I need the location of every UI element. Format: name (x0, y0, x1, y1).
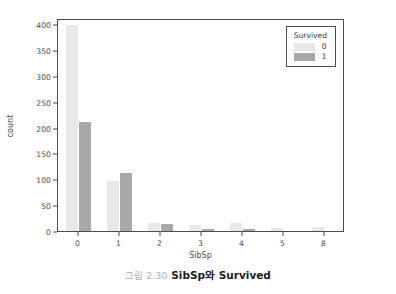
x-tick-mark (200, 232, 201, 236)
bar (120, 173, 133, 231)
y-axis: count 050100150200250300350400 (0, 19, 57, 232)
plot-area: Survived 0 1 (57, 19, 344, 232)
x-tick-mark (118, 232, 119, 236)
y-tick-label: 100 (36, 176, 51, 185)
bar (161, 224, 174, 231)
legend-swatch-0 (294, 43, 315, 51)
bar (243, 229, 256, 231)
bar (107, 181, 120, 231)
y-tick-label: 50 (41, 202, 51, 211)
legend-label-0: 0 (322, 43, 327, 51)
x-tick-label: 1 (116, 239, 121, 248)
y-tick-label: 250 (36, 98, 51, 107)
x-tick-label: 4 (239, 239, 244, 248)
y-tick-label: 350 (36, 47, 51, 56)
x-axis: SibSp 0123458 (57, 232, 344, 262)
x-tick-label: 0 (75, 239, 80, 248)
bar (66, 25, 79, 231)
legend-item-1: 1 (294, 53, 327, 61)
x-tick-label: 5 (280, 239, 285, 248)
x-tick-mark (159, 232, 160, 236)
x-tick-mark (323, 232, 324, 236)
bar (79, 122, 92, 231)
bar (148, 223, 161, 231)
x-tick-label: 3 (198, 239, 203, 248)
bar (202, 229, 215, 231)
x-axis-label: SibSp (189, 251, 212, 260)
y-tick-label: 200 (36, 124, 51, 133)
y-axis-label: count (6, 114, 15, 137)
bar (312, 227, 325, 231)
x-tick-mark (241, 232, 242, 236)
x-tick-mark (282, 232, 283, 236)
x-tick-label: 2 (157, 239, 162, 248)
x-tick-label: 8 (321, 239, 326, 248)
legend-label-1: 1 (322, 53, 327, 61)
legend-swatch-1 (294, 53, 315, 61)
legend-item-0: 0 (294, 43, 327, 51)
legend-title: Survived (294, 31, 327, 40)
y-tick-label: 0 (46, 228, 51, 237)
y-tick-label: 300 (36, 72, 51, 81)
bar (271, 228, 284, 231)
y-tick-label: 150 (36, 150, 51, 159)
figure-container: count 050100150200250300350400 Survived … (0, 0, 396, 294)
figure-caption: 그림 2.30SibSp와 Survived (0, 264, 396, 283)
y-tick-label: 400 (36, 21, 51, 30)
bar (230, 223, 243, 231)
legend: Survived 0 1 (286, 26, 336, 67)
caption-text: SibSp와 Survived (171, 269, 271, 281)
x-tick-mark (77, 232, 78, 236)
caption-number: 그림 2.30 (125, 270, 167, 281)
bar (189, 225, 202, 231)
